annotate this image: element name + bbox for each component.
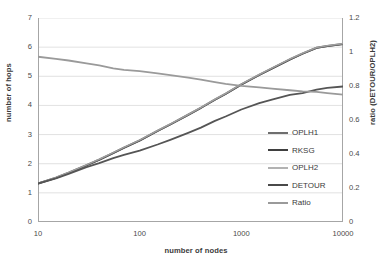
legend-label: Ratio <box>292 198 311 207</box>
y-tick-label-left: 5 <box>6 71 32 80</box>
legend-label: DETOUR <box>292 181 326 190</box>
legend-item-oplh2[interactable]: OPLH2 <box>268 159 326 177</box>
legend-swatch-icon <box>268 149 288 151</box>
y-tick-label-right: 0.2 <box>349 183 379 192</box>
x-axis-title: number of nodes <box>0 246 392 255</box>
y-tick-label-left: 6 <box>6 42 32 51</box>
legend-label: OPLH1 <box>292 128 318 137</box>
chart-container: number of hops ratio (DETOUR/OPLH2) numb… <box>0 0 392 267</box>
legend-item-oplh1[interactable]: OPLH1 <box>268 124 326 142</box>
legend-item-rksg[interactable]: RKSG <box>268 142 326 160</box>
y-tick-label-right: 0.4 <box>349 149 379 158</box>
legend-swatch-icon <box>268 184 288 186</box>
legend-item-detour[interactable]: DETOUR <box>268 177 326 195</box>
y-tick-label-left: 7 <box>6 13 32 22</box>
x-tick-label: 100 <box>120 229 160 238</box>
series-line-ratio <box>38 57 343 95</box>
y-tick-label-right: 0.8 <box>349 81 379 90</box>
legend-label: OPLH2 <box>292 163 318 172</box>
x-tick-label: 10 <box>18 229 58 238</box>
legend-swatch-icon <box>268 132 288 134</box>
legend-label: RKSG <box>292 146 315 155</box>
y-tick-label-left: 3 <box>6 130 32 139</box>
y-tick-label-left: 4 <box>6 100 32 109</box>
legend-swatch-icon <box>268 167 288 169</box>
y-tick-label-right: 1.2 <box>349 13 379 22</box>
y-tick-label-right: 1 <box>349 47 379 56</box>
chart-legend: OPLH1RKSGOPLH2DETOURRatio <box>268 124 326 212</box>
y-tick-label-right: 0.6 <box>349 115 379 124</box>
legend-swatch-icon <box>268 202 288 204</box>
y-tick-label-right: 0 <box>349 217 379 226</box>
y-tick-label-left: 1 <box>6 188 32 197</box>
legend-item-ratio[interactable]: Ratio <box>268 194 326 212</box>
x-tick-label: 10000 <box>323 229 363 238</box>
y-tick-label-left: 2 <box>6 159 32 168</box>
y-tick-label-left: 0 <box>6 217 32 226</box>
x-tick-label: 1000 <box>221 229 261 238</box>
